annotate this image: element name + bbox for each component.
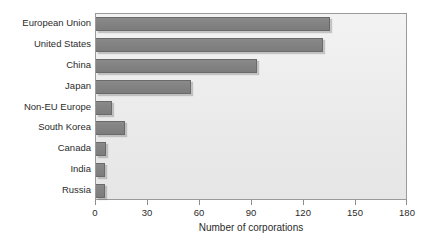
- category-label: Russia: [0, 185, 91, 195]
- x-axis: 0306090120150180: [95, 200, 407, 201]
- x-axis-tick-label: 180: [399, 207, 415, 218]
- x-axis-tick: [355, 200, 356, 205]
- category-label: Japan: [0, 81, 91, 91]
- category-label: Non-EU Europe: [0, 102, 91, 112]
- x-axis-tick-label: 150: [347, 207, 363, 218]
- bar-chart: European UnionUnited StatesChinaJapanNon…: [0, 0, 436, 241]
- x-axis-tick: [95, 200, 96, 205]
- bar: [96, 17, 330, 31]
- bar: [96, 80, 191, 94]
- x-axis-tick-label: 30: [142, 207, 153, 218]
- category-axis-labels: European UnionUnited StatesChinaJapanNon…: [0, 13, 91, 200]
- bar-row: [96, 101, 406, 115]
- x-axis-tick-label: 120: [295, 207, 311, 218]
- bar: [96, 101, 112, 115]
- x-axis-tick: [406, 200, 407, 205]
- bar-series: [96, 14, 406, 199]
- bar: [96, 38, 323, 52]
- bar-row: [96, 184, 406, 198]
- category-label: United States: [0, 39, 91, 49]
- bar-row: [96, 142, 406, 156]
- x-axis-tick: [303, 200, 304, 205]
- bar-row: [96, 163, 406, 177]
- x-axis-tick: [147, 200, 148, 205]
- bar: [96, 59, 257, 73]
- x-axis-tick-label: 90: [246, 207, 257, 218]
- category-label: China: [0, 60, 91, 70]
- plot-area: [95, 13, 407, 200]
- bar: [96, 121, 125, 135]
- bar: [96, 163, 105, 177]
- bar: [96, 142, 106, 156]
- x-axis-tick: [251, 200, 252, 205]
- bar-row: [96, 38, 406, 52]
- bar-row: [96, 80, 406, 94]
- category-label: Canada: [0, 143, 91, 153]
- x-axis-tick-label: 0: [92, 207, 97, 218]
- bar-row: [96, 17, 406, 31]
- x-axis-tick-label: 60: [194, 207, 205, 218]
- x-axis-tick: [199, 200, 200, 205]
- x-axis-title: Number of corporations: [95, 222, 407, 233]
- category-label: European Union: [0, 18, 91, 28]
- bar: [96, 184, 105, 198]
- bar-row: [96, 59, 406, 73]
- category-label: South Korea: [0, 122, 91, 132]
- bar-row: [96, 121, 406, 135]
- category-label: India: [0, 164, 91, 174]
